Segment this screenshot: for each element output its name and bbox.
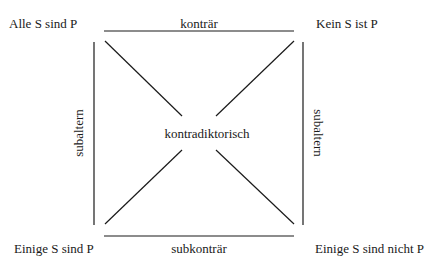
relation-contradictory-label: kontradiktorisch xyxy=(0,127,414,140)
contradictory-diagonal-br xyxy=(216,150,294,224)
relation-subcontrary-label: subkonträr xyxy=(0,242,398,255)
contradictory-diagonal-tr xyxy=(216,41,294,116)
contradictory-diagonal-bl xyxy=(105,150,182,224)
contradictory-diagonal-tl xyxy=(105,41,182,116)
relation-contrary-label: konträr xyxy=(0,17,398,30)
